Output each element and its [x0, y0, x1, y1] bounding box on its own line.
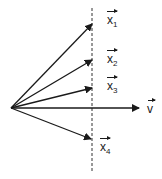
- vector-x2-arrow: [11, 60, 92, 108]
- vector-arrow-icon: [107, 77, 117, 78]
- vector-x1-arrow: [11, 24, 92, 108]
- label-v: v: [147, 103, 153, 115]
- label-x2: x2: [107, 53, 117, 68]
- label-x3: x3: [107, 80, 117, 95]
- vector-arrow-icon: [100, 138, 110, 139]
- vector-x4-arrow: [11, 108, 91, 139]
- vector-arrow-icon: [107, 11, 117, 12]
- label-x1: x1: [107, 14, 117, 29]
- vector-diagram: [0, 0, 162, 179]
- label-x4: x4: [100, 141, 110, 156]
- vector-arrow-icon: [107, 50, 117, 51]
- vector-arrow-icon: [148, 100, 155, 101]
- vector-x3-arrow: [11, 88, 92, 108]
